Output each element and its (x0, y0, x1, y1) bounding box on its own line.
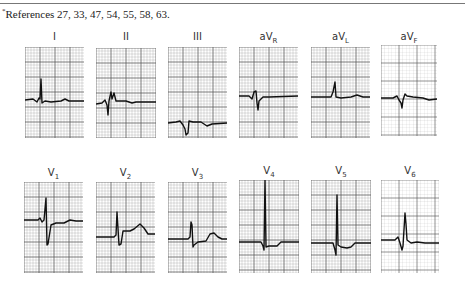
lead-label: II (96, 31, 156, 42)
ecg-grid-V1 (24, 182, 83, 273)
ecg-grid-aVR (239, 47, 298, 138)
lead-label: aVF (381, 31, 437, 45)
ecg-grid-II (96, 48, 156, 138)
ecg-grid-I (25, 47, 84, 138)
lead-label: aVL (311, 31, 370, 45)
ecg-trace (381, 213, 439, 250)
lead-V5: V5 (311, 169, 371, 273)
lead-label: V2 (96, 167, 155, 181)
lead-label: V3 (168, 167, 227, 181)
ecg-grid-V4 (239, 180, 299, 273)
lead-label: V4 (239, 165, 299, 179)
lead-V1: V1 (24, 171, 83, 273)
ecg-grid-aVF (381, 45, 437, 136)
top-rule (0, 3, 465, 4)
footnote-text: References 27, 33, 47, 54, 55, 58, 63. (6, 8, 170, 20)
lead-aVF: aVF (381, 35, 437, 136)
lead-label: aVR (239, 31, 298, 45)
lead-label: V5 (311, 165, 371, 179)
lead-I: I (25, 35, 84, 138)
ecg-trace (381, 94, 437, 108)
lead-label: III (168, 31, 227, 42)
ecg-grid-III (168, 47, 227, 138)
lead-V3: V3 (168, 171, 227, 273)
ecg-grid-aVL (311, 47, 370, 138)
lead-III: III (168, 35, 227, 138)
lead-aVR: aVR (239, 35, 298, 138)
lead-V2: V2 (96, 171, 155, 273)
lead-label: I (25, 31, 84, 42)
lead-V6: V6 (381, 169, 439, 273)
ecg-grid-V5 (311, 180, 371, 273)
lead-aVL: aVL (311, 35, 370, 138)
ecg-grid-V2 (96, 182, 155, 273)
lead-label: V1 (24, 167, 83, 181)
lead-II: II (96, 35, 156, 138)
ecg-grid-V3 (168, 182, 227, 273)
ecg-grid-V6 (381, 180, 439, 273)
lead-V4: V4 (239, 169, 299, 273)
lead-label: V6 (381, 165, 439, 179)
footnote: *References 27, 33, 47, 54, 55, 58, 63. (2, 7, 170, 20)
